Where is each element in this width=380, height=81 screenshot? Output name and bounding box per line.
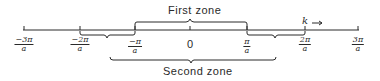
tick-label-2pi: 2π a [299, 36, 311, 53]
tick-label-minus-pi: −π a [128, 38, 142, 55]
tick-label-minus-3pi: −3π a [14, 36, 33, 53]
first-zone-brace [135, 19, 247, 30]
second-zone-brace-right [247, 31, 305, 38]
tick-label-3pi: 3π a [352, 36, 364, 53]
second-zone-brace [110, 57, 276, 63]
tick-label-minus-2pi: −2π a [70, 36, 89, 53]
second-zone-label: Second zone [163, 65, 233, 77]
tick-label-pi: π a [243, 38, 250, 55]
first-zone-label: First zone [168, 4, 221, 16]
tick-label-zero: 0 [187, 38, 193, 50]
k-label: k [302, 15, 308, 26]
